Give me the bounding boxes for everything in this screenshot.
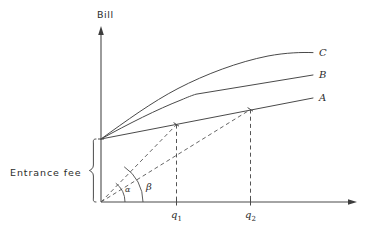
angle-alpha-label: α bbox=[125, 186, 130, 194]
y-axis-label: Bill bbox=[97, 10, 114, 20]
x-tick-label-q1-sub: 1 bbox=[177, 215, 181, 223]
curve-label-B: B bbox=[319, 70, 326, 80]
dropped-lines-group bbox=[177, 110, 251, 201]
curve-C-group bbox=[101, 52, 313, 139]
curve-B-group bbox=[101, 75, 313, 139]
curve-A-group bbox=[101, 98, 313, 139]
entrance-fee-brace bbox=[89, 139, 96, 202]
x-tick-label-q1: q1 bbox=[171, 210, 182, 223]
entrance-fee-label: Entrance fee bbox=[10, 168, 81, 178]
curve-A-path bbox=[101, 98, 313, 139]
curve-label-A: A bbox=[319, 93, 326, 103]
x-tick-label-q2: q2 bbox=[245, 210, 256, 223]
x-axis-arrowhead bbox=[348, 199, 357, 204]
curve-C-path bbox=[101, 52, 313, 139]
angle-beta-label: β bbox=[146, 182, 152, 192]
brace-stroke bbox=[89, 139, 96, 202]
y-axis-arrowhead bbox=[98, 26, 104, 35]
curve-label-C: C bbox=[319, 48, 327, 58]
curve-B-path bbox=[101, 75, 313, 139]
diagram-svg bbox=[0, 0, 371, 235]
figure-canvas: Bill Entrance fee α β C B A q1 q2 bbox=[0, 0, 371, 235]
x-tick-label-q2-sub: 2 bbox=[251, 215, 255, 223]
ray-beta-to-q1 bbox=[101, 125, 177, 202]
